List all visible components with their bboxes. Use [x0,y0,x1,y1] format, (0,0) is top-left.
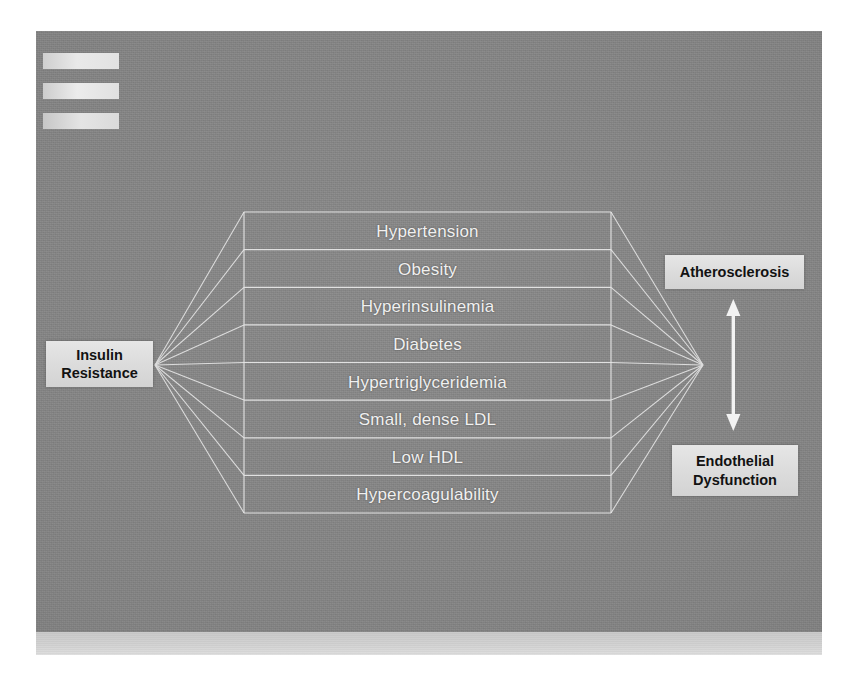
slide-canvas: Hypertension Obesity Hyperinsulinemia Di… [36,31,822,632]
node-insulin-resistance: Insulin Resistance [46,341,153,387]
table-row: Hyperinsulinemia [244,297,611,317]
node-insulin-resistance-line-2: Resistance [61,364,138,382]
logo-bar-icon [43,83,119,99]
table-row: Hypertriglyceridemia [244,373,611,393]
table-row: Hypertension [244,222,611,242]
logo-bar-icon [43,113,119,129]
node-endothelial-dysfunction: Endothelial Dysfunction [672,445,798,496]
bidirectional-arrow-icon [726,299,740,431]
diagram-vector-layer [36,31,822,632]
logo-bar-icon [43,53,119,69]
node-atherosclerosis: Atherosclerosis [665,255,804,289]
node-endothelial-dysfunction-line-2: Dysfunction [693,471,777,489]
scan-bottom-band [36,632,822,655]
table-row: Hypercoagulability [244,485,611,505]
table-row: Small, dense LDL [244,410,611,430]
scanned-page: Hypertension Obesity Hyperinsulinemia Di… [0,0,852,675]
left-fan-connectors [155,212,244,513]
table-row: Diabetes [244,335,611,355]
node-endothelial-dysfunction-line-1: Endothelial [693,452,777,470]
table-row: Obesity [244,260,611,280]
node-insulin-resistance-line-1: Insulin [61,346,138,364]
table-row: Low HDL [244,448,611,468]
node-atherosclerosis-label: Atherosclerosis [680,263,790,281]
